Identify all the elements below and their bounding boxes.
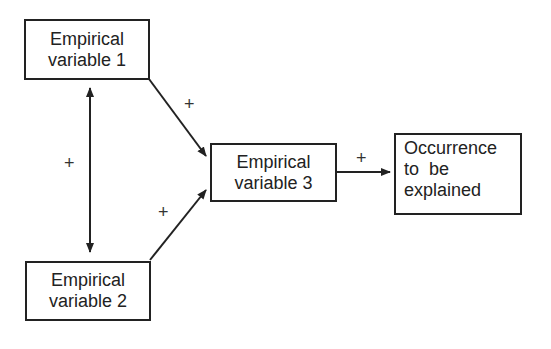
node-empirical-variable-1: Empirical variable 1 (24, 19, 150, 80)
node-label-line2: to be (404, 159, 520, 180)
arrow-v1-v3 (149, 79, 206, 156)
node-label-line2: variable 1 (26, 50, 148, 71)
node-label-line2: variable 2 (27, 291, 149, 312)
node-label-line1: Occurrence (404, 138, 520, 159)
node-label-line3: explained (404, 180, 520, 201)
node-empirical-variable-2: Empirical variable 2 (25, 261, 151, 321)
arrow-v2-v3 (150, 190, 206, 260)
node-label-line1: Empirical (212, 152, 335, 173)
diagram: Empirical variable 1 Empirical variable … (0, 0, 551, 349)
sign-v1-v3: + (184, 94, 195, 115)
node-occurrence-to-be-explained: Occurrence to be explained (394, 133, 522, 215)
sign-v1-v2: + (64, 153, 75, 174)
node-label-line1: Empirical (26, 29, 148, 50)
sign-v3-outcome: + (356, 148, 367, 169)
node-empirical-variable-3: Empirical variable 3 (210, 143, 337, 202)
node-label-line1: Empirical (27, 270, 149, 291)
sign-v2-v3: + (158, 202, 169, 223)
node-label-line2: variable 3 (212, 173, 335, 194)
